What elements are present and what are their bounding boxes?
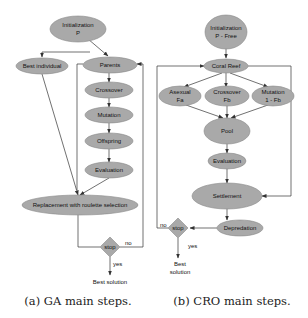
- svg-text:Evaluation: Evaluation: [95, 167, 123, 173]
- ga-node-parents: Parents: [83, 57, 137, 73]
- ga-node-initialization: Initialization P: [50, 16, 106, 42]
- svg-text:Pool: Pool: [221, 128, 233, 134]
- cro-node-pool: Pool: [204, 118, 250, 144]
- cro-node-settlement: Settlement: [192, 183, 262, 209]
- svg-text:Evaluation: Evaluation: [213, 158, 241, 164]
- cro-best-solution-line2: solution: [170, 269, 191, 275]
- ga-node-evaluation: Evaluation: [85, 162, 133, 178]
- svg-text:Mutation: Mutation: [261, 89, 284, 95]
- svg-text:Fa: Fa: [176, 97, 184, 103]
- cro-node-stop-decision: stop: [168, 218, 188, 238]
- svg-text:Settlement: Settlement: [213, 193, 242, 199]
- svg-text:1 - Fb: 1 - Fb: [265, 97, 281, 103]
- edge-mutation-pool: [231, 105, 268, 118]
- svg-text:Crossover: Crossover: [213, 89, 240, 95]
- svg-text:Parents: Parents: [100, 62, 121, 68]
- ga-node-stop-decision: stop: [100, 237, 120, 257]
- ga-node-replacement: Replacement with roulette selection: [22, 195, 138, 215]
- cro-best-solution-line1: Best: [174, 261, 186, 267]
- edge-best-replacement: [42, 74, 78, 195]
- cro-label-yes: yes: [188, 243, 197, 249]
- cro-node-crossover: Crossover Fb: [205, 86, 249, 106]
- svg-text:Initialization: Initialization: [62, 22, 93, 28]
- svg-text:Initialization: Initialization: [210, 25, 241, 31]
- ga-node-mutation: Mutation: [85, 107, 133, 123]
- edge-parents-left-rail: [77, 64, 83, 190]
- edge-replacement-stop: [78, 214, 100, 247]
- svg-text:P: P: [76, 30, 80, 36]
- cro-node-evaluation: Evaluation: [208, 153, 246, 169]
- ga-diagram: Initialization P Best individual Parents…: [16, 16, 143, 308]
- svg-text:Crossover: Crossover: [95, 87, 122, 93]
- svg-text:Mutation: Mutation: [97, 112, 120, 118]
- svg-text:Best individual: Best individual: [23, 63, 62, 69]
- cro-node-depredation: Depredation: [217, 220, 263, 236]
- cro-node-coral-reef: Coral Reef: [204, 59, 248, 73]
- ga-node-best-individual: Best individual: [16, 58, 68, 74]
- ga-node-offspring: Offspring: [85, 133, 133, 149]
- cro-label-no: no: [160, 222, 167, 228]
- edge-reef-right-rail: [262, 66, 291, 196]
- edge-init-parents: [88, 39, 108, 56]
- ga-node-crossover: Crossover: [85, 82, 133, 98]
- svg-text:Offspring: Offspring: [97, 138, 121, 144]
- svg-text:stop: stop: [172, 225, 184, 231]
- edge-evaluation-replacement: [80, 178, 109, 195]
- svg-text:Asexual: Asexual: [169, 89, 190, 95]
- edge-asexual-pool: [186, 105, 223, 118]
- ga-best-solution: Best solution: [93, 279, 127, 285]
- flowchart-canvas: Initialization P Best individual Parents…: [0, 0, 308, 318]
- ga-label-no: no: [125, 240, 132, 246]
- cro-node-mutation: Mutation 1 - Fb: [252, 86, 294, 106]
- cro-diagram: Initialization P - Free Coral Reef Asexu…: [157, 15, 294, 308]
- cro-node-initialization: Initialization P - Free: [205, 15, 247, 49]
- svg-text:P - Free: P - Free: [215, 33, 237, 39]
- svg-text:stop: stop: [104, 244, 116, 250]
- edge-to-best-individual: [42, 52, 90, 57]
- svg-text:Coral Reef: Coral Reef: [212, 63, 241, 69]
- svg-text:Fb: Fb: [223, 97, 231, 103]
- cro-node-asexual: Asexual Fa: [159, 86, 201, 106]
- svg-text:Replacement with roulette sele: Replacement with roulette selection: [33, 202, 128, 208]
- ga-label-yes: yes: [113, 261, 122, 267]
- svg-text:Depredation: Depredation: [224, 225, 257, 231]
- cro-caption: (b) CRO main steps.: [173, 294, 290, 308]
- ga-caption: (a) GA main steps.: [24, 294, 131, 308]
- edge-reef-asexual: [184, 73, 222, 87]
- edge-reef-mutation: [230, 73, 268, 87]
